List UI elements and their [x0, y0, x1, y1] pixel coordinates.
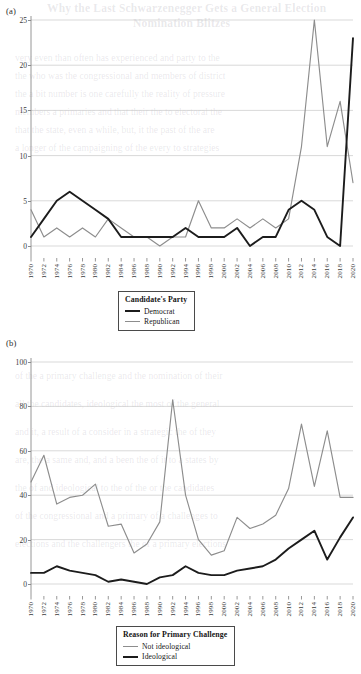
x-tick-label: 1974 [53, 264, 61, 278]
panel-a-chart-svg [31, 20, 353, 246]
y-tick-mark [28, 110, 32, 111]
panel-a-legend: Candidate's PartyDemocratRepublican [118, 291, 195, 331]
legend-title: Reason for Primary Challenge [123, 630, 227, 639]
x-tick-label: 2000 [220, 264, 228, 278]
x-tick-label: 2016 [323, 602, 331, 616]
x-tick-label: 1970 [27, 264, 35, 278]
legend-swatch-icon [123, 646, 138, 647]
x-tick-label: 2016 [323, 264, 331, 278]
legend-item[interactable]: Ideological [123, 652, 227, 661]
y-tick-mark [28, 362, 32, 363]
x-tick-label: 2004 [246, 264, 254, 278]
x-tick-label: 1998 [207, 602, 215, 616]
x-tick-label: 1974 [53, 602, 61, 616]
x-tick-label: 1986 [130, 264, 138, 278]
y-tick-mark [28, 156, 32, 157]
legend-item-label: Ideological [142, 652, 177, 661]
x-tick-label: 1972 [40, 264, 48, 278]
x-tick-label: 2012 [297, 602, 305, 616]
y-tick-label: 20 [6, 535, 27, 544]
x-tick-label: 1976 [66, 264, 74, 278]
y-tick-mark [28, 201, 32, 202]
x-tick-label: 2020 [349, 264, 357, 278]
y-tick-mark [28, 65, 32, 66]
x-tick-label: 2020 [349, 602, 357, 616]
panel-b-plot [31, 362, 353, 584]
x-tick-label: 2014 [310, 264, 318, 278]
x-tick-label: 2018 [336, 602, 344, 616]
x-tick-label: 2002 [233, 602, 241, 616]
x-tick-label: 1986 [130, 602, 138, 616]
x-tick-label: 1990 [156, 602, 164, 616]
x-tick-label: 1984 [117, 602, 125, 616]
x-tick-label: 2006 [259, 602, 267, 616]
y-tick-label: 15 [6, 106, 27, 115]
x-tick-label: 2004 [246, 602, 254, 616]
y-tick-mark [28, 406, 32, 407]
x-tick-label: 2008 [272, 602, 280, 616]
legend-item-label: Not ideological [142, 642, 191, 651]
y-tick-label: 100 [6, 358, 27, 367]
y-tick-label: 0 [6, 242, 27, 251]
legend-title: Candidate's Party [125, 295, 187, 304]
y-tick-label: 0 [6, 580, 27, 589]
x-tick-label: 2000 [220, 602, 228, 616]
x-tick-label: 1990 [156, 264, 164, 278]
x-tick-label: 1988 [143, 264, 151, 278]
y-tick-label: 20 [6, 61, 27, 70]
panel-b-legend: Reason for Primary ChallengeNot ideologi… [116, 626, 235, 666]
x-tick-label: 1972 [40, 602, 48, 616]
y-tick-label: 10 [6, 151, 27, 160]
x-tick-label: 2014 [310, 602, 318, 616]
x-tick-label: 1970 [27, 602, 35, 616]
y-tick-mark [28, 540, 32, 541]
series-line-ideological [31, 517, 353, 584]
x-tick-label: 1994 [182, 602, 190, 616]
legend-item[interactable]: Democrat [125, 307, 187, 316]
x-tick-label: 1978 [79, 602, 87, 616]
legend-swatch-icon [123, 656, 138, 658]
x-tick-label: 1980 [91, 602, 99, 616]
x-tick-label: 1992 [169, 264, 177, 278]
y-tick-mark [28, 246, 32, 247]
y-tick-mark [28, 495, 32, 496]
x-tick-label: 1988 [143, 602, 151, 616]
x-tick-label: 1994 [182, 264, 190, 278]
x-tick-label: 1982 [104, 264, 112, 278]
panel-b: (b) 020406080100197019721974197619781980… [0, 330, 361, 674]
legend-swatch-icon [125, 321, 140, 322]
x-tick-label: 2018 [336, 264, 344, 278]
x-tick-label: 1980 [91, 264, 99, 278]
y-tick-mark [28, 451, 32, 452]
x-tick-label: 1996 [194, 264, 202, 278]
y-tick-mark [28, 20, 32, 21]
x-tick-label: 2006 [259, 264, 267, 278]
legend-item[interactable]: Republican [125, 317, 187, 326]
x-tick-label: 1982 [104, 602, 112, 616]
legend-swatch-icon [125, 310, 140, 312]
panel-a-plot [31, 20, 353, 246]
panel-b-chart-svg [31, 362, 353, 584]
legend-item-label: Democrat [144, 307, 175, 316]
x-tick-label: 1998 [207, 264, 215, 278]
series-line-democrat [31, 38, 353, 246]
x-tick-label: 1984 [117, 264, 125, 278]
legend-item[interactable]: Not ideological [123, 642, 227, 651]
x-tick-label: 1996 [194, 602, 202, 616]
x-tick-label: 2012 [297, 264, 305, 278]
legend-item-label: Republican [144, 317, 180, 326]
x-tick-label: 2010 [285, 264, 293, 278]
panel-a: (a) 051015202519701972197419761978198019… [0, 0, 361, 335]
panel-b-label: (b) [6, 338, 17, 348]
figure-page: Why the Last Schwarzenegger Gets a Gener… [0, 0, 361, 674]
x-tick-label: 1992 [169, 602, 177, 616]
panel-a-y-axis [3, 0, 25, 260]
x-tick-label: 2002 [233, 264, 241, 278]
x-tick-label: 2008 [272, 264, 280, 278]
x-tick-label: 2010 [285, 602, 293, 616]
y-tick-label: 80 [6, 402, 27, 411]
x-tick-label: 1978 [79, 264, 87, 278]
y-tick-label: 25 [6, 16, 27, 25]
x-tick-label: 1976 [66, 602, 74, 616]
series-line-republican [31, 20, 353, 246]
